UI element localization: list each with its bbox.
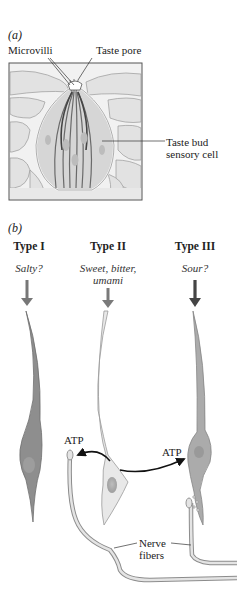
sensory-cell-label-line2: sensory cell (166, 148, 218, 160)
type-1-title: Type I (0, 240, 64, 252)
atp-right-label: ATP (162, 446, 182, 458)
type-3-taste: Sour? (155, 262, 235, 274)
taste-pore-label: Taste pore (96, 44, 141, 56)
type-2-cell (98, 311, 128, 525)
type-1-cell (20, 311, 42, 522)
microvilli-label: Microvilli (8, 44, 53, 56)
type-2-taste-line2: umami (68, 274, 148, 286)
panel-b-label: (b) (8, 221, 22, 236)
atp-left-label: ATP (64, 434, 84, 446)
taste-bud-illustration (9, 58, 165, 200)
panel-a-label: (a) (8, 28, 22, 43)
type-2-taste-line1: Sweet, bitter, (68, 262, 148, 274)
type-1-taste: Salty? (0, 262, 69, 274)
nerve-fibers-label-line1: Nerve (139, 537, 166, 549)
type-2-title: Type II (73, 240, 143, 252)
sensory-cell-label-line1: Taste bud (166, 136, 208, 148)
taste-bud-diagram (0, 0, 237, 603)
type-3-title: Type III (160, 240, 230, 252)
nerve-fibers-label-line2: fibers (139, 549, 164, 561)
type-3-cell (188, 311, 212, 525)
